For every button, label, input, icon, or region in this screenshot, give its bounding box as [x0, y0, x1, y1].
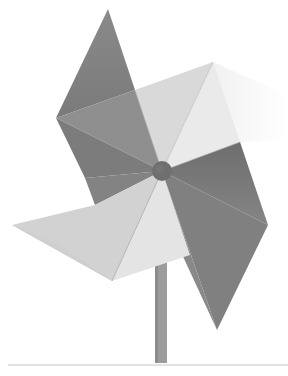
- pinwheel-photo: [0, 0, 288, 376]
